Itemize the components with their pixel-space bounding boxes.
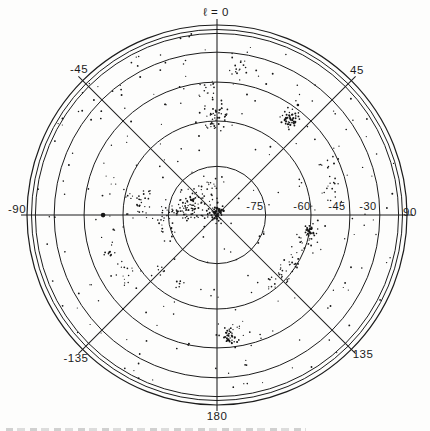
data-point: [215, 223, 217, 225]
data-point: [217, 202, 219, 204]
data-point: [301, 250, 302, 251]
data-point: [201, 189, 202, 190]
data-point: [196, 215, 198, 217]
data-point: [187, 207, 188, 208]
data-point: [126, 213, 128, 215]
data-point: [194, 193, 195, 194]
data-point: [215, 178, 217, 180]
data-point: [160, 274, 162, 276]
data-point: [166, 215, 168, 217]
data-point: [274, 286, 275, 287]
data-point: [295, 121, 297, 123]
data-point: [221, 176, 223, 178]
data-point: [202, 209, 203, 210]
data-point: [210, 123, 212, 125]
data-point: [218, 220, 220, 222]
data-point: [204, 108, 206, 110]
data-point: [238, 197, 240, 199]
data-point: [199, 112, 201, 114]
data-point: [159, 69, 161, 71]
data-point: [209, 201, 210, 202]
data-point: [333, 290, 334, 291]
data-point: [310, 245, 312, 247]
data-point: [234, 65, 236, 67]
data-point: [182, 206, 183, 207]
data-point: [296, 84, 298, 86]
data-point: [212, 118, 214, 120]
data-point: [110, 275, 112, 277]
data-point: [136, 204, 138, 206]
data-point: [379, 299, 381, 301]
data-point: [179, 283, 181, 285]
data-point: [204, 203, 206, 205]
data-point: [230, 331, 232, 333]
data-point: [182, 217, 183, 218]
latitude-ring-label: -75: [246, 200, 263, 212]
data-point: [363, 225, 365, 227]
data-point: [301, 182, 303, 184]
data-point: [226, 340, 228, 342]
data-point: [317, 228, 318, 229]
data-point: [144, 197, 146, 199]
data-point: [198, 149, 200, 151]
data-point: [314, 84, 315, 85]
data-point: [64, 194, 66, 196]
data-point: [173, 212, 175, 214]
data-point: [192, 199, 194, 201]
data-point: [158, 269, 159, 270]
data-point: [214, 128, 216, 130]
data-point: [230, 327, 232, 329]
data-point: [215, 120, 216, 121]
data-point: [192, 210, 194, 212]
data-point: [180, 210, 182, 212]
data-point: [49, 216, 50, 217]
data-point: [310, 232, 312, 234]
data-point: [343, 287, 344, 288]
data-point: [286, 270, 287, 271]
data-point: [190, 33, 192, 35]
data-point: [188, 343, 190, 345]
data-point: [203, 90, 205, 92]
data-point: [161, 266, 162, 267]
data-point: [221, 100, 223, 102]
data-point: [289, 124, 291, 126]
data-point: [289, 264, 291, 266]
data-point: [82, 92, 84, 94]
data-point: [123, 266, 125, 268]
data-point: [303, 247, 305, 249]
data-point: [332, 156, 334, 158]
data-point: [211, 188, 213, 190]
longitude-spoke: [217, 215, 356, 354]
data-point: [200, 289, 202, 291]
data-point: [127, 135, 128, 136]
data-point: [117, 263, 118, 264]
data-point: [251, 292, 252, 293]
data-point: [165, 62, 167, 64]
data-point: [300, 237, 301, 238]
data-point: [297, 104, 300, 107]
data-point: [214, 186, 215, 187]
data-point: [245, 67, 247, 69]
data-point: [278, 272, 279, 273]
data-point: [308, 235, 310, 237]
data-point: [216, 218, 218, 220]
data-point: [208, 208, 210, 210]
data-point: [285, 121, 286, 122]
data-point: [280, 121, 282, 123]
data-point: [321, 165, 322, 166]
data-point: [289, 118, 291, 120]
data-point: [197, 203, 198, 204]
data-point: [143, 190, 145, 192]
data-point: [172, 231, 173, 232]
data-point: [224, 248, 225, 249]
data-point: [218, 335, 220, 337]
data-point: [232, 386, 234, 388]
longitude-spoke: [217, 76, 356, 215]
data-point: [97, 86, 98, 87]
data-point: [78, 111, 79, 112]
data-point: [247, 52, 248, 53]
data-point: [186, 220, 188, 222]
data-point: [178, 204, 179, 205]
data-point: [231, 333, 233, 335]
data-point: [228, 373, 229, 374]
